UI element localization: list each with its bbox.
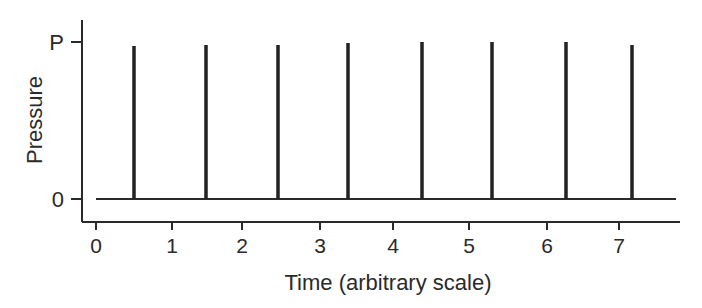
x-tick-labels: 0 1 2 3 4 5 6 7 <box>90 234 625 257</box>
x-tick-label: 7 <box>613 234 625 257</box>
x-axis-label: Time (arbitrary scale) <box>285 270 492 295</box>
x-tick-label: 0 <box>90 234 102 257</box>
y-axis-label: Pressure <box>22 76 47 164</box>
x-tick-label: 3 <box>314 234 326 257</box>
x-tick-label: 4 <box>387 234 399 257</box>
x-tick-label: 1 <box>166 234 178 257</box>
x-tick-label: 5 <box>463 234 475 257</box>
x-ticks <box>96 222 619 230</box>
y-tick-label-0: 0 <box>52 187 64 212</box>
x-tick-label: 6 <box>541 234 553 257</box>
pressure-pulses <box>134 42 632 199</box>
y-tick-label-p: P <box>49 30 64 55</box>
x-tick-label: 2 <box>236 234 248 257</box>
pressure-pulse-chart: P 0 Pressure 0 1 2 3 4 5 6 7 Time (arbit… <box>0 0 702 308</box>
